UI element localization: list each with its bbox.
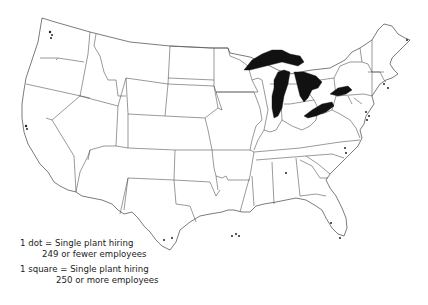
legend-square-line1: 1 square = Single plant hiring bbox=[20, 264, 159, 275]
legend-square-line2: 250 or more employees bbox=[20, 275, 159, 286]
legend-dot-line2: 249 or fewer employees bbox=[20, 249, 159, 260]
plant-dots bbox=[25, 31, 408, 241]
lake-superior bbox=[244, 50, 304, 70]
legend-dot-line1: 1 dot = Single plant hiring bbox=[20, 238, 159, 249]
state-borders-west bbox=[26, 32, 220, 222]
lake-huron bbox=[294, 72, 322, 102]
map-legend: 1 dot = Single plant hiring 249 or fewer… bbox=[20, 238, 159, 286]
lake-ontario bbox=[330, 86, 352, 96]
state-borders-east bbox=[212, 40, 386, 212]
us-outline bbox=[22, 18, 410, 250]
lake-erie bbox=[304, 102, 334, 118]
lake-michigan bbox=[272, 70, 290, 118]
